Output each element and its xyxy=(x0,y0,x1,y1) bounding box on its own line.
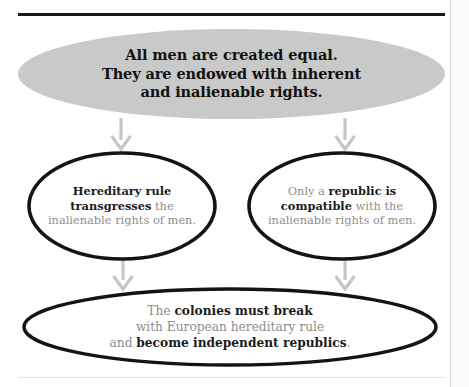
hereditary-plain-1: the xyxy=(151,199,173,213)
page-edge-shade xyxy=(451,0,469,387)
premise-line-3: and inalienable rights. xyxy=(140,83,322,100)
conclusion-plain-2: with European hereditary rule xyxy=(136,320,324,334)
conclusion-plain-3: and xyxy=(110,336,137,350)
republic-plain-1: Only a xyxy=(288,184,329,198)
hereditary-plain-2: inalienable rights of men. xyxy=(48,213,196,227)
bottom-rule xyxy=(18,377,445,378)
node-premise-text: All men are created equal. They are endo… xyxy=(96,46,367,102)
premise-line-2: They are endowed with inherent xyxy=(102,65,361,82)
hereditary-emphasis-1: Hereditary rule xyxy=(73,184,172,198)
node-colonies-conclusion-text: The colonies must break with European he… xyxy=(104,303,357,351)
republic-emphasis-1: republic is xyxy=(329,184,397,198)
premise-line-1: All men are created equal. xyxy=(125,46,337,63)
node-premise: All men are created equal. They are endo… xyxy=(18,29,445,119)
conclusion-plain-1: The xyxy=(147,304,174,318)
conclusion-emphasis-1: colonies must break xyxy=(174,304,312,318)
top-rule xyxy=(18,13,445,16)
diagram-canvas: All men are created equal. They are endo… xyxy=(0,0,469,387)
conclusion-emphasis-2: become independent republics xyxy=(136,336,346,350)
republic-plain-2: with the xyxy=(352,199,403,213)
conclusion-plain-4: . xyxy=(347,336,351,350)
republic-plain-3: inalienable rights of men. xyxy=(268,213,416,227)
node-republic-compatible-text: Only a republic is compatible with the i… xyxy=(262,184,422,228)
node-hereditary-rule-text: Hereditary rule transgresses the inalien… xyxy=(42,184,202,228)
node-republic-compatible: Only a republic is compatible with the i… xyxy=(246,150,438,262)
arrow-premise-to-hereditary xyxy=(108,118,134,152)
arrow-premise-to-republic xyxy=(332,118,358,152)
node-hereditary-rule: Hereditary rule transgresses the inalien… xyxy=(26,150,218,262)
republic-emphasis-2: compatible xyxy=(281,199,352,213)
hereditary-emphasis-2: transgresses xyxy=(70,199,151,213)
node-colonies-conclusion: The colonies must break with European he… xyxy=(21,286,439,368)
